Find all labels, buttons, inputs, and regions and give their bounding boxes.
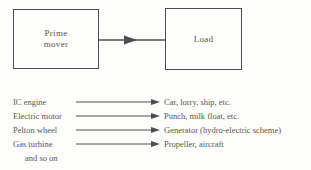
- mapping-row: IC engine Car, lorry, ship, etc.: [0, 96, 311, 108]
- mapping-target: Generator (hydro-electric scheme): [164, 124, 281, 136]
- mapping-source: IC engine: [13, 96, 46, 108]
- mapping-target: Car, lorry, ship, etc.: [164, 96, 231, 108]
- prime-mover-label-line1: Prime: [45, 28, 68, 39]
- block-diagram: Prime mover Load IC engine Car, lorry, s…: [0, 0, 311, 170]
- mapping-row: Electric motor Punch, milk float, etc.: [0, 110, 311, 122]
- mapping-source: Electric motor: [13, 110, 62, 122]
- arrow-right-icon: [98, 33, 166, 47]
- arrow-right-icon: [76, 140, 160, 148]
- arrow-right-icon: [76, 126, 160, 134]
- mapping-row: Pelton wheel Generator (hydro-electric s…: [0, 124, 311, 136]
- arrow-right-icon: [76, 98, 160, 106]
- mapping-target: Punch, milk float, etc.: [164, 110, 239, 122]
- mapping-source: Pelton wheel: [13, 124, 57, 136]
- mapping-source: Gas turbine: [13, 138, 52, 150]
- arrow-right-icon: [76, 112, 160, 120]
- prime-mover-label-line2: mover: [44, 39, 69, 50]
- mapping-row: Gas turbine Propeller, aircraft: [0, 138, 311, 150]
- footer-note: and so on: [25, 152, 58, 164]
- load-box: Load: [165, 8, 242, 70]
- prime-mover-box: Prime mover: [13, 9, 99, 69]
- load-label: Load: [194, 34, 214, 45]
- mapping-target: Propeller, aircraft: [164, 138, 224, 150]
